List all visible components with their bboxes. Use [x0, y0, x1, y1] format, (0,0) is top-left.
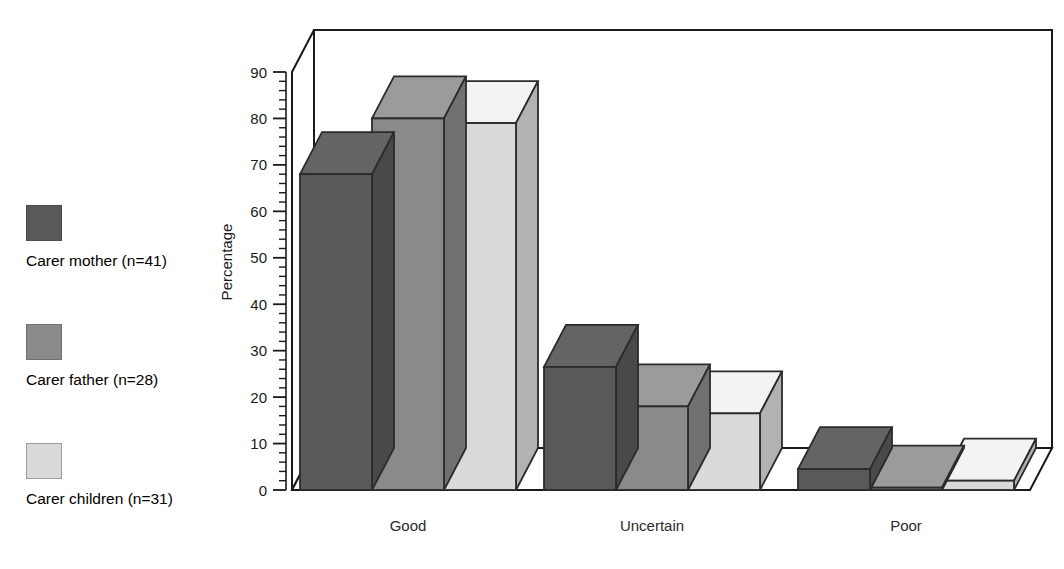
- x-axis-label-uncertain: Uncertain: [620, 517, 684, 534]
- y-tick-label: 70: [250, 156, 267, 173]
- y-tick-label: 90: [250, 64, 267, 81]
- y-tick-label: 30: [250, 342, 267, 359]
- bar-uncertain-series-0: [544, 325, 638, 490]
- y-tick-label: 0: [259, 482, 267, 499]
- y-tick-label: 50: [250, 249, 267, 266]
- bar-good-series-0: [300, 132, 394, 490]
- y-tick-label: 10: [250, 435, 267, 452]
- chart-container: Carer mother (n=41) Carer father (n=28) …: [0, 0, 1064, 569]
- x-axis-label-poor: Poor: [890, 517, 922, 534]
- y-tick-label: 20: [250, 389, 267, 406]
- y-axis-title: Percentage: [218, 224, 235, 301]
- y-axis-ticks: 0102030405060708090: [250, 64, 286, 499]
- y-tick-label: 80: [250, 110, 267, 127]
- chart-plot-area: Percentage 0102030405060708090 GoodUncer…: [0, 0, 1064, 569]
- y-tick-label: 60: [250, 203, 267, 220]
- x-axis-label-good: Good: [390, 517, 427, 534]
- x-axis-labels: GoodUncertainPoor: [390, 517, 922, 534]
- y-tick-label: 40: [250, 296, 267, 313]
